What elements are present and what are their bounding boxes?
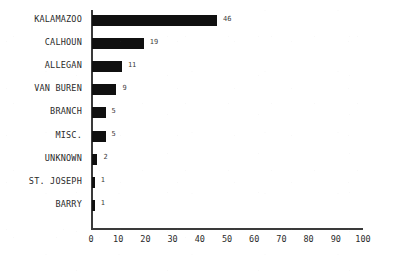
category-label: VAN BUREN (0, 83, 82, 94)
bar (92, 61, 122, 72)
category-axis-labels: KALAMAZOOCALHOUNALLEGANVAN BURENBRANCHMI… (0, 10, 82, 228)
x-tick-label: 80 (303, 233, 313, 245)
x-tick-label: 100 (355, 233, 370, 245)
x-tick-label: 0 (88, 233, 93, 245)
bar-value-label: 5 (112, 129, 116, 140)
x-axis-tick-labels: 0102030405060708090100 (91, 233, 363, 247)
bar (92, 38, 144, 49)
plot-area: 461911955211 (91, 10, 363, 228)
bar-value-label: 11 (128, 60, 136, 71)
bar-value-label: 1 (101, 175, 105, 186)
bar (92, 154, 97, 165)
x-tick-label: 20 (140, 233, 150, 245)
bar-chart: KALAMAZOOCALHOUNALLEGANVAN BURENBRANCHMI… (0, 0, 395, 272)
bar (92, 84, 116, 95)
x-tick-label: 40 (195, 233, 205, 245)
bar-value-label: 46 (223, 14, 231, 25)
bar-value-label: 5 (112, 106, 116, 117)
bar (92, 177, 95, 188)
x-tick-label: 60 (249, 233, 259, 245)
category-label: CALHOUN (0, 37, 82, 48)
category-label: ST. JOSEPH (0, 176, 82, 187)
category-label: UNKNOWN (0, 153, 82, 164)
bar-value-label: 19 (150, 37, 158, 48)
bar (92, 131, 106, 142)
x-tick-label: 10 (113, 233, 123, 245)
category-label: ALLEGAN (0, 60, 82, 71)
x-tick-label: 90 (331, 233, 341, 245)
bar-value-label: 1 (101, 198, 105, 209)
category-label: MISC. (0, 130, 82, 141)
bar (92, 107, 106, 118)
bar (92, 15, 217, 26)
category-label: BARRY (0, 199, 82, 210)
category-label: BRANCH (0, 106, 82, 117)
x-tick-label: 70 (276, 233, 286, 245)
category-label: KALAMAZOO (0, 14, 82, 25)
bar (92, 200, 95, 211)
x-tick-label: 50 (222, 233, 232, 245)
x-axis-line (91, 228, 363, 230)
bar-value-label: 9 (122, 83, 126, 94)
bar-value-label: 2 (103, 152, 107, 163)
x-tick-label: 30 (167, 233, 177, 245)
